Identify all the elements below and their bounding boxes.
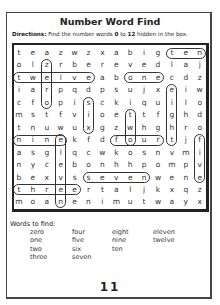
word-to-find: nine	[112, 237, 126, 244]
grid-cell: u	[125, 85, 135, 95]
grid-cell: g	[153, 123, 163, 133]
grid-cell: n	[84, 197, 94, 207]
grid-cell: a	[14, 148, 24, 158]
word-to-find: twelve	[153, 237, 175, 244]
grid-cell: p	[181, 160, 191, 170]
grid-cell: n	[28, 123, 38, 133]
grid-cell: q	[181, 185, 191, 195]
grid-cell: x	[195, 197, 205, 207]
directions-label: Directions:	[12, 31, 46, 37]
grid-cell: q	[70, 148, 80, 158]
grid-cell: j	[181, 135, 191, 145]
grid-cell: b	[70, 160, 80, 170]
grid-cell: t	[14, 48, 24, 58]
grid-cell: n	[153, 148, 163, 158]
grid-cell: i	[14, 85, 24, 95]
grid-cell: z	[84, 48, 94, 58]
grid-cell: d	[195, 110, 205, 120]
grid-cell: s	[28, 110, 38, 120]
grid-cell: z	[56, 48, 66, 58]
page-number: 11	[0, 280, 220, 294]
found-word-oval-eleven	[55, 134, 66, 208]
grid-cell: o	[28, 197, 38, 207]
grid-cell: h	[181, 110, 191, 120]
word-to-find: two	[30, 246, 42, 253]
word-to-find: six	[72, 246, 81, 253]
grid-cell: b	[70, 60, 80, 70]
grid-cell: z	[111, 123, 121, 133]
grid-cell: s	[70, 173, 80, 183]
grid-cell: l	[181, 98, 191, 108]
found-word-oval-four	[110, 135, 164, 146]
grid-cell: d	[97, 135, 107, 145]
grid-cell: a	[28, 85, 38, 95]
grid-cell: c	[97, 98, 107, 108]
grid-cell: i	[97, 197, 107, 207]
grid-cell: f	[84, 135, 94, 145]
grid-cell: t	[97, 185, 107, 195]
grid-cell: r	[97, 60, 107, 70]
grid-cell: m	[14, 197, 24, 207]
grid-cell: w	[56, 123, 66, 133]
word-to-find: one	[30, 237, 42, 244]
grid-cell: w	[195, 85, 205, 95]
words-to-find-label: Words to find:	[10, 220, 55, 228]
grid-cell: c	[167, 73, 177, 83]
grid-cell: i	[70, 98, 80, 108]
grid-cell: l	[125, 185, 135, 195]
grid-cell: e	[111, 110, 121, 120]
grid-cell: t	[139, 197, 149, 207]
grid-cell: b	[111, 73, 121, 83]
grid-cell: a	[181, 60, 191, 70]
word-to-find: ten	[112, 246, 123, 253]
grid-cell: a	[42, 48, 52, 58]
grid-cell: g	[42, 148, 52, 158]
grid-cell: e	[84, 60, 94, 70]
grid-cell: g	[153, 48, 163, 58]
grid-cell: u	[70, 123, 80, 133]
word-to-find: eight	[112, 229, 129, 236]
found-word-oval-zero	[41, 59, 52, 108]
grid-cell: g	[97, 123, 107, 133]
grid-cell: j	[195, 60, 205, 70]
page-title: Number Word Find	[0, 16, 220, 27]
grid-cell: e	[70, 197, 80, 207]
grid-cell: b	[14, 173, 24, 183]
grid-cell: e	[28, 48, 38, 58]
found-word-oval-seven	[83, 172, 151, 183]
grid-cell: i	[181, 85, 191, 95]
grid-cell: p	[56, 85, 66, 95]
found-word-oval-eight	[166, 84, 177, 146]
grid-cell: f	[56, 110, 66, 120]
word-to-find: three	[30, 254, 47, 261]
grid-cell: m	[181, 148, 191, 158]
grid-cell: p	[56, 98, 66, 108]
found-word-oval-five	[194, 134, 205, 183]
grid-cell: h	[125, 160, 135, 170]
grid-cell: m	[167, 160, 177, 170]
grid-cell: c	[84, 148, 94, 158]
grid-cell: t	[42, 110, 52, 120]
grid-cell: u	[153, 98, 163, 108]
word-to-find: seven	[72, 254, 91, 261]
grid-cell: m	[14, 110, 24, 120]
grid-cell: e	[167, 173, 177, 183]
grid-cell: o	[84, 160, 94, 170]
grid-cell: a	[111, 185, 121, 195]
grid-cell: v	[125, 60, 135, 70]
grid-cell: o	[14, 60, 24, 70]
grid-cell: q	[70, 85, 80, 95]
grid-cell: l	[167, 60, 177, 70]
found-word-oval-six	[83, 97, 94, 134]
grid-cell: x	[97, 48, 107, 58]
grid-cell: h	[139, 123, 149, 133]
grid-cell: u	[42, 123, 52, 133]
grid-cell: s	[139, 148, 149, 158]
grid-cell: f	[153, 110, 163, 120]
grid-cell: p	[139, 160, 149, 170]
grid-cell: o	[195, 123, 205, 133]
grid-cell: t	[14, 123, 24, 133]
grid-cell: r	[181, 123, 191, 133]
grid-cell: j	[139, 185, 149, 195]
found-word-oval-one	[124, 72, 164, 83]
